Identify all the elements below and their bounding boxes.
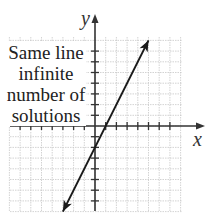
annotation-text: Same line infinite number of solutions xyxy=(6,42,86,126)
annotation-line-4: solutions xyxy=(6,105,86,126)
annotation-line-3: number of xyxy=(6,84,86,105)
annotation-line-1: Same line xyxy=(6,42,86,63)
x-axis-label: x xyxy=(193,128,202,151)
y-axis-label: y xyxy=(81,7,90,30)
annotation-line-2: infinite xyxy=(6,63,86,84)
